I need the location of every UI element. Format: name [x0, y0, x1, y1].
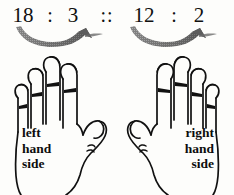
left-label-line-2: hand [22, 141, 78, 157]
curved-arrow-right-ratio [128, 24, 220, 56]
left-label-line-3: side [22, 156, 78, 172]
right-hand-side-label: right hand side [152, 125, 214, 172]
right-label-line-2: hand [152, 141, 214, 157]
proportion-hands-figure: 18 : 3 :: 12 : 2 [0, 0, 234, 195]
right-label-line-1: right [152, 125, 214, 141]
left-hand-side-label: left hand side [22, 125, 78, 172]
right-label-line-3: side [152, 156, 214, 172]
left-label-line-1: left [22, 125, 78, 141]
curved-arrow-left-ratio [14, 24, 106, 56]
